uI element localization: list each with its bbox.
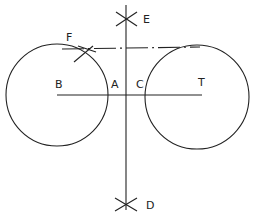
label-B: B [55, 78, 63, 91]
geometry-figure: E F B A C T D [0, 0, 256, 218]
label-E: E [143, 13, 150, 26]
circle-T [145, 45, 249, 149]
label-A: A [111, 78, 119, 91]
label-C: C [136, 78, 144, 91]
label-F: F [66, 31, 72, 44]
label-T: T [197, 76, 205, 89]
diagram-canvas: E F B A C T D [0, 0, 256, 218]
label-D: D [146, 199, 154, 212]
